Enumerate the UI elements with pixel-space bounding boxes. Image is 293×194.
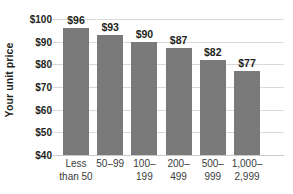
x-axis-tick-label: 500– 999 bbox=[194, 158, 232, 183]
bar bbox=[131, 42, 157, 155]
bar bbox=[234, 71, 260, 155]
y-axis-tick-label: $50 bbox=[2, 127, 52, 138]
bar-value-label: $82 bbox=[193, 46, 233, 58]
x-axis-tick-labels: Less than 5050–99100– 199200– 499500– 99… bbox=[56, 158, 284, 194]
x-axis-tick-label: 1,000– 2,999 bbox=[228, 158, 266, 183]
y-axis-tick-label: $80 bbox=[2, 59, 52, 70]
bar bbox=[97, 35, 123, 155]
y-axis-tick-label: $60 bbox=[2, 104, 52, 115]
plot-area: $96$93$90$87$82$77 bbox=[56, 19, 284, 155]
x-axis-tick-label: 50–99 bbox=[91, 158, 129, 171]
bar-value-label: $77 bbox=[227, 57, 267, 69]
bar bbox=[63, 28, 89, 155]
y-axis-tick-label: $70 bbox=[2, 82, 52, 93]
y-axis-tick-label: $90 bbox=[2, 36, 52, 47]
y-axis-tick-label: $100 bbox=[2, 14, 52, 25]
y-axis-tick-label: $40 bbox=[2, 150, 52, 161]
bar bbox=[166, 48, 192, 155]
bar-chart: Your unit price $100$90$80$70$60$50$40 $… bbox=[0, 0, 293, 194]
gridline bbox=[56, 155, 284, 156]
y-axis-tick-labels: $100$90$80$70$60$50$40 bbox=[0, 19, 52, 155]
x-axis-tick-label: 200– 499 bbox=[160, 158, 198, 183]
bar bbox=[200, 60, 226, 155]
x-axis-tick-label: 100– 199 bbox=[125, 158, 163, 183]
x-axis-tick-label: Less than 50 bbox=[57, 158, 95, 183]
bar-value-label: $87 bbox=[159, 34, 199, 46]
